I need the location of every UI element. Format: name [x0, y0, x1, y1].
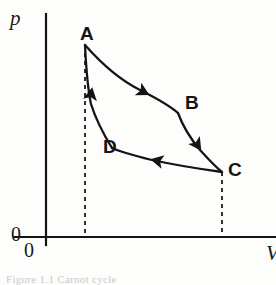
pv-diagram-figure: p V 0 0 A B C D Figure 1.1 Carnot cycle: [0, 0, 276, 285]
origin-label-x: 0: [24, 240, 34, 260]
point-label-a: A: [80, 24, 94, 43]
pv-diagram-canvas: [0, 0, 276, 285]
curve-a-to-b: [85, 45, 178, 113]
direction-arrow-ab: [135, 83, 153, 101]
figure-caption: Figure 1.1 Carnot cycle: [6, 273, 117, 285]
origin-label-y: 0: [11, 224, 21, 244]
point-label-d: D: [103, 137, 117, 156]
point-label-b: B: [185, 93, 199, 112]
curve-c-to-d: [112, 148, 222, 172]
point-label-c: C: [228, 160, 242, 179]
y-axis-label: p: [10, 8, 21, 29]
x-axis-label: V: [266, 243, 276, 264]
